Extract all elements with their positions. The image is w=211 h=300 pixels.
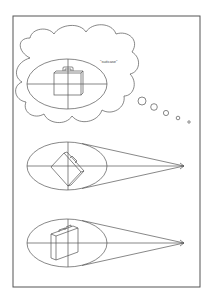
trail-bubble-3 bbox=[163, 110, 168, 115]
thought-label: "suitcase" bbox=[100, 59, 118, 64]
suitcase-icon bbox=[51, 152, 84, 186]
rotated-view bbox=[27, 142, 184, 190]
cone-line-bottom bbox=[82, 243, 184, 266]
angled-view bbox=[27, 219, 184, 267]
diagram-canvas: "suitcase" bbox=[0, 0, 211, 300]
trail-bubble-4 bbox=[176, 116, 180, 120]
imagined-view bbox=[27, 59, 107, 109]
cone-line-top bbox=[82, 144, 184, 167]
cone-line-bottom bbox=[82, 166, 184, 189]
cone-line-top bbox=[82, 221, 184, 244]
trail-bubble-2 bbox=[151, 104, 158, 111]
thought-trail bbox=[138, 97, 190, 123]
trail-bubble-5 bbox=[188, 121, 190, 123]
trail-bubble-1 bbox=[138, 97, 146, 105]
suitcase-icon bbox=[51, 225, 78, 260]
thought-cloud-icon bbox=[16, 25, 139, 123]
suitcase-icon bbox=[54, 67, 83, 95]
